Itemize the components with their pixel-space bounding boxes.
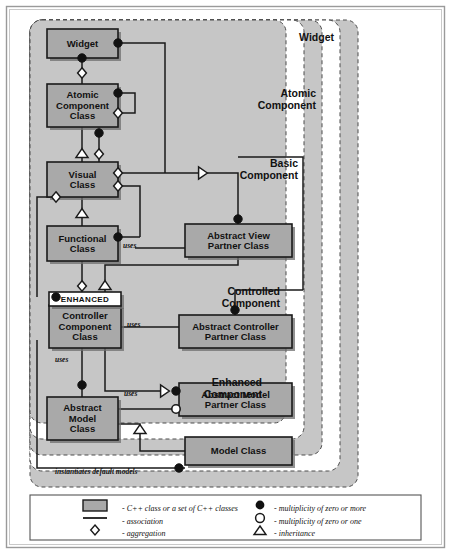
- class-box-atomic-component-class: AtomicComponentClass: [47, 84, 121, 130]
- region-label-widget: Widget: [299, 31, 334, 43]
- legend-item-label: - multiplicity of zero or more: [274, 504, 367, 513]
- edge-label-uses-model-down: uses: [55, 355, 68, 364]
- class-box-visual-class-label-0: Visual: [69, 169, 97, 180]
- class-box-controller-component-label-1: Component: [59, 321, 113, 332]
- marker-m-ctrl-left-dot-filled-circle: [52, 293, 60, 301]
- marker-m-atomic-bot-dot-filled-circle: [95, 129, 103, 137]
- region-label-text-widget-0: Widget: [299, 31, 334, 43]
- legend-hollow-circle-icon: [256, 514, 265, 523]
- class-box-controller-component-label-0: Controller: [62, 310, 108, 321]
- marker-m-model-left-dot-filled-circle: [175, 464, 183, 472]
- class-box-model-class-label-0: Model Class: [211, 445, 266, 456]
- edge-label-uses-functional: uses: [123, 241, 136, 250]
- filled-circle-icon: [52, 293, 60, 301]
- marker-m-amp-uses-hollow-hollow-circle: [172, 405, 180, 413]
- edge-label-uses-model: uses: [124, 389, 137, 398]
- class-box-abstract-view-partner: Abstract ViewPartner Class: [185, 224, 295, 260]
- edge-label-uses-controller: uses: [127, 320, 140, 329]
- marker-m-view-top-dot-filled-circle: [234, 215, 242, 223]
- filled-circle-icon: [78, 54, 86, 62]
- marker-m-atomic-right-dot-filled-circle: [114, 89, 122, 97]
- region-label-text-atomic-1: Component: [258, 99, 317, 111]
- region-label-text-controlled-0: Controlled: [228, 285, 281, 297]
- filled-circle-icon: [78, 381, 86, 389]
- class-box-functional-class: FunctionalClass: [47, 226, 121, 264]
- class-box-controller-component-label-2: Class: [72, 331, 97, 342]
- region-boundary-enhanced: [30, 20, 286, 423]
- class-box-functional-class-label-0: Functional: [58, 233, 106, 244]
- legend-item-label: - association: [122, 517, 163, 526]
- legend-filled-circle-icon: [256, 501, 265, 510]
- legend-class-box-icon: [83, 500, 107, 511]
- region-label-text-basic-0: Basic: [270, 157, 298, 169]
- class-box-atomic-component-class-label-2: Class: [70, 110, 95, 121]
- class-box-abstract-model-class-label-0: Abstract: [63, 402, 102, 413]
- class-box-abstract-controller-label-0: Abstract Controller: [192, 321, 279, 332]
- class-box-abstract-controller-label-1: Partner Class: [205, 331, 266, 342]
- class-box-abstract-view-partner-label-0: Abstract View: [207, 230, 270, 241]
- class-box-controller-component: ControllerComponentClass: [49, 305, 124, 351]
- region-label-text-enhanced-0: Enhanced: [212, 376, 262, 388]
- marker-m-widget-bottom-filled-circle: [78, 54, 86, 62]
- legend-item-label: - inheritance: [274, 529, 316, 538]
- marker-m-amp-left-dot-filled-circle: [172, 387, 180, 395]
- class-box-abstract-view-partner-label-1: Partner Class: [208, 240, 269, 251]
- legend-item-label: - aggregation: [122, 529, 165, 538]
- class-box-abstract-model-class-label-2: Class: [70, 423, 95, 434]
- filled-circle-icon: [172, 387, 180, 395]
- edge-label-instantiates: instantiates default models: [55, 467, 138, 476]
- region-label-text-enhanced-1: Component: [204, 388, 263, 400]
- filled-circle-icon: [95, 129, 103, 137]
- uml-class-diagram: WidgetAtomicComponentClassVisualClassFun…: [0, 0, 451, 554]
- legend-item-label: - multiplicity of zero or one: [274, 517, 362, 526]
- stereotype-label: ENHANCED: [61, 295, 110, 304]
- class-box-atomic-component-class-label-1: Component: [56, 100, 110, 111]
- filled-circle-icon: [114, 233, 122, 241]
- legend-layer: - C++ class or a set of C++ classes- ass…: [30, 495, 421, 540]
- hollow-circle-icon: [172, 405, 180, 413]
- region-label-enhanced: EnhancedComponent: [204, 376, 263, 400]
- region-label-text-basic-1: Component: [240, 169, 299, 181]
- legend-item-label: - C++ class or a set of C++ classes: [122, 504, 238, 513]
- class-box-widget-class-label-0: Widget: [67, 38, 99, 49]
- stereotype-enhanced-stereotype: ENHANCED: [49, 292, 124, 309]
- marker-m-widget-right-filled-circle: [114, 39, 122, 47]
- marker-m-func-right-dot-filled-circle: [114, 233, 122, 241]
- class-box-abstract-controller: Abstract ControllerPartner Class: [179, 315, 295, 351]
- region-label-text-controlled-1: Component: [222, 297, 281, 309]
- class-box-abstract-model-partner-label-1: Partner Class: [205, 399, 266, 410]
- region-enhanced: [30, 20, 286, 423]
- marker-m-amc-top-dot-filled-circle: [78, 381, 86, 389]
- class-box-visual-class-label-1: Class: [70, 179, 95, 190]
- region-label-controlled: ControlledComponent: [222, 285, 281, 309]
- diagram-canvas: WidgetAtomicComponentClassVisualClassFun…: [0, 0, 451, 554]
- region-label-text-atomic-0: Atomic: [280, 87, 316, 99]
- class-box-model-class: Model Class: [185, 437, 295, 468]
- filled-circle-icon: [114, 39, 122, 47]
- filled-circle-icon: [175, 464, 183, 472]
- class-box-atomic-component-class-label-0: Atomic: [66, 89, 98, 100]
- class-box-functional-class-label-1: Class: [70, 243, 95, 254]
- class-box-abstract-model-class: AbstractModelClass: [47, 397, 121, 443]
- filled-circle-icon: [234, 215, 242, 223]
- filled-circle-icon: [114, 89, 122, 97]
- class-box-abstract-model-class-label-1: Model: [69, 413, 96, 424]
